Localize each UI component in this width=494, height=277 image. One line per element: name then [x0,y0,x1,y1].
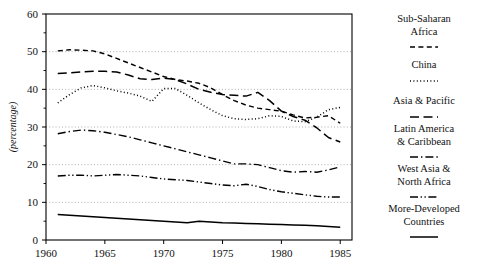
x-tick-label: 1960 [35,247,58,259]
y-tick-label: 60 [27,8,39,20]
line-chart: 0102030405060196019651970197519801985(pe… [0,0,494,277]
y-tick-label: 50 [27,45,39,57]
legend-label: More-Developed [388,203,460,214]
series-line-0 [58,50,340,123]
y-axis-title: (percentage) [7,101,19,152]
y-tick-label: 20 [27,158,39,170]
x-tick-label: 1985 [329,247,352,259]
legend-item-asia-pacific[interactable]: Asia & Pacific [393,95,455,117]
legend-item-latin-america-caribbean[interactable]: Latin America& Caribbean [394,123,455,157]
x-tick-label: 1965 [94,247,117,259]
y-tick-label: 40 [27,83,39,95]
x-tick-label: 1975 [212,247,235,259]
y-tick-label: 0 [33,234,39,246]
legend-label: China [411,59,436,70]
y-tick-label: 30 [27,121,39,133]
series-line-4 [58,174,340,197]
legend-label: Africa [411,26,438,37]
legend-item-china[interactable]: China [410,59,438,81]
legend-label: West Asia & [398,163,451,174]
series-line-5 [58,214,340,227]
x-tick-label: 1970 [153,247,176,259]
x-tick-label: 1980 [270,247,293,259]
chart-container: 0102030405060196019651970197519801985(pe… [0,0,494,277]
legend-label: & Caribbean [397,136,452,147]
series-line-3 [58,130,340,172]
legend-label: Latin America [394,123,455,134]
legend-label: Countries [404,216,445,227]
series-line-1 [58,86,340,122]
legend-label: Asia & Pacific [393,95,455,106]
legend-label: Sub-Saharan [397,13,451,24]
legend-item-west-asia-north-africa[interactable]: West Asia &North Africa [397,163,451,197]
legend-item-more-developed-countries[interactable]: More-DevelopedCountries [388,203,460,237]
legend-item-sub-saharan-africa[interactable]: Sub-SaharanAfrica [397,13,451,47]
legend-label: North Africa [397,176,451,187]
y-tick-label: 10 [27,196,39,208]
